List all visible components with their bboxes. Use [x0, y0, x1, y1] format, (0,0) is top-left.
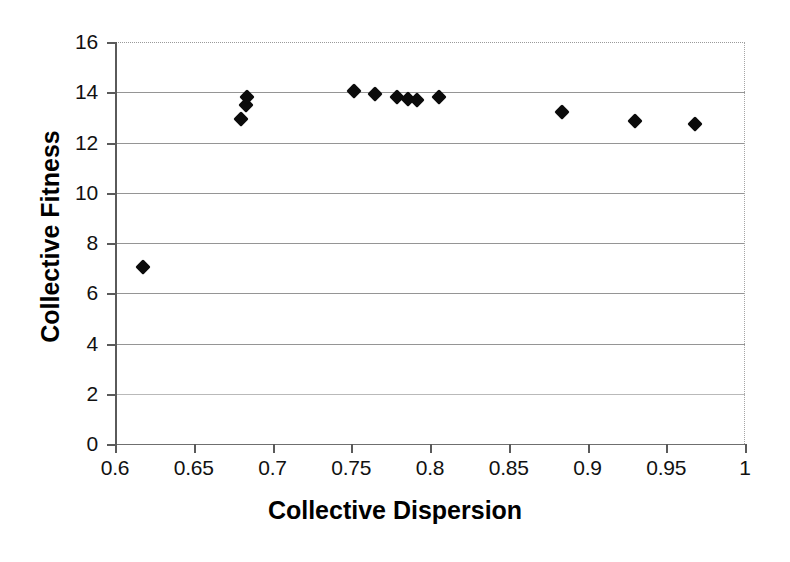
- y-axis-tick-label: 0: [62, 432, 98, 456]
- y-axis-tick: [107, 344, 116, 346]
- y-axis-tick-label: 4: [62, 332, 98, 356]
- y-axis-tick-label: 2: [62, 382, 98, 406]
- x-axis-tick-label: 0.85: [469, 456, 549, 480]
- y-axis-tick-label: 16: [62, 30, 98, 54]
- data-point: [233, 111, 249, 127]
- x-axis-tick: [745, 444, 747, 453]
- y-axis-tick-label: 12: [62, 131, 98, 155]
- gridline: [115, 92, 745, 93]
- y-axis-tick-label: 8: [62, 231, 98, 255]
- x-axis-tick-label: 0.7: [233, 456, 313, 480]
- y-axis-tick-label: 10: [62, 181, 98, 205]
- data-point: [555, 105, 571, 121]
- x-axis-tick-label: 0.65: [154, 456, 234, 480]
- x-axis-tick: [115, 444, 117, 453]
- x-axis-tick-label: 0.8: [390, 456, 470, 480]
- scatter-chart: 0246810121416 0.60.650.70.750.80.850.90.…: [0, 0, 790, 562]
- x-axis-tick-label: 1: [705, 456, 785, 480]
- y-axis-tick: [107, 193, 116, 195]
- x-axis-tick: [666, 444, 668, 453]
- x-axis-title: Collective Dispersion: [0, 496, 790, 525]
- x-axis-tick-label: 0.6: [75, 456, 155, 480]
- x-axis-tick: [273, 444, 275, 453]
- y-axis-tick: [107, 92, 116, 94]
- y-axis-tick-label: 6: [62, 281, 98, 305]
- x-axis-tick: [509, 444, 511, 453]
- y-axis-tick: [107, 394, 116, 396]
- gridline: [115, 143, 745, 144]
- x-axis-tick-label: 0.9: [548, 456, 628, 480]
- gridline: [115, 394, 745, 395]
- x-axis-tick: [588, 444, 590, 453]
- plot-right-border: [744, 42, 745, 444]
- data-point: [687, 116, 703, 132]
- data-point: [367, 86, 383, 102]
- x-axis-tick-label: 0.75: [311, 456, 391, 480]
- x-axis-tick: [194, 444, 196, 453]
- y-axis-tick: [107, 293, 116, 295]
- plot-area: [115, 42, 745, 444]
- gridline: [115, 193, 745, 194]
- y-axis-tick: [107, 42, 116, 44]
- gridline: [115, 344, 745, 345]
- data-point: [627, 113, 643, 129]
- data-point: [136, 259, 152, 275]
- x-axis-tick: [351, 444, 353, 453]
- gridline: [115, 293, 745, 294]
- x-axis-tick: [430, 444, 432, 453]
- y-axis-tick-label: 14: [62, 80, 98, 104]
- y-axis-title: Collective Fitness: [36, 27, 65, 447]
- x-axis-tick-label: 0.95: [626, 456, 706, 480]
- y-axis-tick: [107, 243, 116, 245]
- data-point: [347, 83, 363, 99]
- y-axis-tick: [107, 143, 116, 145]
- gridline: [115, 42, 745, 43]
- gridline: [115, 243, 745, 244]
